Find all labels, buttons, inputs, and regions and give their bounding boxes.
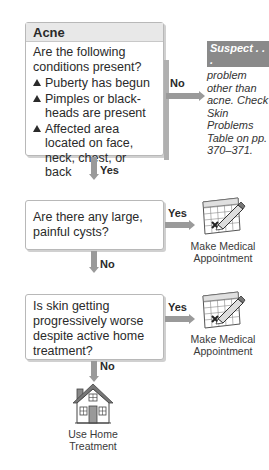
conditions-question: Are the following conditions present?	[33, 45, 156, 75]
flowchart-title: Acne	[26, 23, 163, 42]
condition-item: Puberty has begun	[33, 76, 156, 91]
cysts-question-box: Are there any large, painful cysts?	[25, 200, 164, 250]
suspect-tag: Suspect . . .	[207, 41, 269, 67]
no-connector-horizontal	[166, 93, 199, 99]
condition-item: Pimples or black-heads are present	[33, 92, 156, 121]
no-connector-step3	[91, 361, 97, 377]
yes-label-step3: Yes	[168, 301, 187, 313]
bullet-triangle-icon	[33, 95, 41, 102]
no-connector-step2	[91, 251, 97, 268]
yes-arrow-icon	[89, 174, 99, 180]
house-icon	[71, 381, 115, 425]
yes-label-step2: Yes	[168, 207, 187, 219]
bullet-triangle-icon	[33, 79, 41, 86]
worsening-question: Is skin getting progressively worse desp…	[33, 299, 156, 359]
final-outcome-label: Use Home Treatment	[53, 428, 133, 452]
yes-connector-step2	[165, 222, 190, 228]
cysts-question: Are there any large, painful cysts?	[33, 210, 156, 240]
no-label-step2: No	[100, 258, 115, 270]
yes-arrow-icon	[189, 220, 195, 230]
suspect-text: problem other than acne. Check Skin Prob…	[207, 69, 269, 157]
acne-question-box: Acne Are the following conditions presen…	[25, 22, 164, 156]
no-arrow-icon	[199, 91, 205, 101]
no-label-step1: No	[170, 77, 185, 89]
yes-connector-step3	[165, 316, 190, 322]
no-arrow-icon	[89, 267, 99, 273]
no-label-step3: No	[100, 360, 115, 372]
outcome-label-step3: Make Medical Appointment	[183, 333, 263, 357]
calendar-pencil-icon	[200, 290, 246, 330]
yes-connector-step1	[91, 157, 97, 174]
yes-arrow-icon	[189, 314, 195, 324]
bullet-triangle-icon	[33, 125, 41, 132]
yes-label-step1: Yes	[100, 164, 119, 176]
outcome-label-step2: Make Medical Appointment	[183, 240, 263, 264]
suspect-callout: Suspect . . . problem other than acne. C…	[207, 41, 269, 157]
worsening-question-box: Is skin getting progressively worse desp…	[25, 294, 164, 360]
no-connector-vertical	[164, 60, 169, 160]
calendar-pencil-icon	[200, 196, 246, 236]
